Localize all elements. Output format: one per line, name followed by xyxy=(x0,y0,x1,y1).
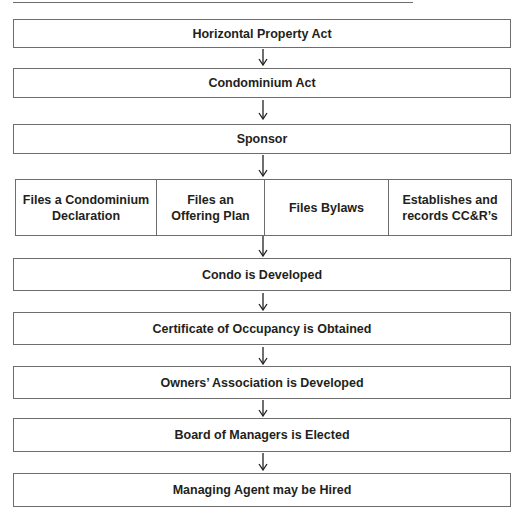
down-arrow-icon xyxy=(258,400,268,417)
down-arrow-icon xyxy=(258,347,268,365)
down-arrow-icon xyxy=(258,49,268,66)
step-horizontal-property-act: Horizontal Property Act xyxy=(13,19,511,48)
top-rule xyxy=(13,2,413,3)
action-cell-offering-plan: Files an Offering Plan xyxy=(156,180,264,235)
action-cell-declaration: Files a Condominium Declaration xyxy=(16,180,156,235)
step-sponsor: Sponsor xyxy=(13,124,511,154)
down-arrow-icon xyxy=(258,100,268,120)
step-label: Sponsor xyxy=(237,132,288,146)
step-label: Certificate of Occupancy is Obtained xyxy=(153,322,372,336)
step-owners-association: Owners’ Association is Developed xyxy=(13,366,511,399)
step-label: Managing Agent may be Hired xyxy=(173,483,352,497)
step-label: Condo is Developed xyxy=(202,268,322,282)
step-label: Owners’ Association is Developed xyxy=(160,376,363,390)
down-arrow-icon xyxy=(258,155,268,177)
down-arrow-icon xyxy=(258,293,268,311)
action-label: Establishes and records CC&R’s xyxy=(395,192,505,224)
step-label: Board of Managers is Elected xyxy=(174,428,349,442)
action-label: Files an Offering Plan xyxy=(163,192,258,224)
action-cell-ccrs: Establishes and records CC&R’s xyxy=(388,180,511,235)
step-label: Condominium Act xyxy=(208,76,315,90)
step-certificate-of-occupancy: Certificate of Occupancy is Obtained xyxy=(13,312,511,345)
down-arrow-icon xyxy=(258,236,268,257)
step-condominium-act: Condominium Act xyxy=(13,68,511,98)
down-arrow-icon xyxy=(258,453,268,471)
action-cell-bylaws: Files Bylaws xyxy=(264,180,388,235)
step-board-of-managers: Board of Managers is Elected xyxy=(13,418,511,452)
step-managing-agent: Managing Agent may be Hired xyxy=(13,473,511,507)
action-label: Files a Condominium Declaration xyxy=(22,192,150,224)
step-condo-developed: Condo is Developed xyxy=(13,258,511,291)
sponsor-actions-row: Files a Condominium Declaration Files an… xyxy=(15,179,512,236)
step-label: Horizontal Property Act xyxy=(192,27,331,41)
action-label: Files Bylaws xyxy=(289,200,364,216)
